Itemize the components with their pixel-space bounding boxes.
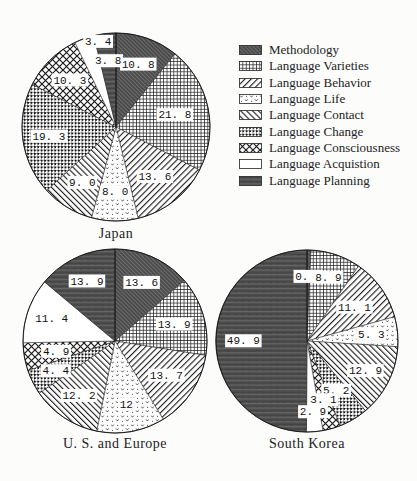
- u-s-and-europe-value-label-methodology: 13. 6: [125, 277, 158, 289]
- pie-us-europe-group: 13. 613. 913. 71212. 24. 44. 911. 413. 9: [23, 249, 207, 433]
- japan-value-label-varieties: 21. 8: [158, 109, 191, 121]
- japan-value-label-planning: 3. 8: [95, 55, 121, 67]
- change-pattern-swatch-icon: [239, 127, 262, 137]
- south-korea-value-label-contact: 12. 9: [349, 365, 382, 377]
- legend-item-language-contact: Language Contact: [239, 107, 400, 123]
- pie-title-south-korea: South Korea: [207, 436, 407, 452]
- south-korea-value-label-acquisition: 2. 9: [300, 406, 326, 418]
- pie-japan-group: 10. 821. 813. 68. 09. 019. 310. 33. 43. …: [22, 33, 210, 221]
- u-s-and-europe-value-label-change: 4. 4: [43, 365, 70, 377]
- legend-label: Language Consciousness: [269, 140, 400, 156]
- u-s-and-europe-value-label-acquisition: 11. 4: [35, 313, 68, 325]
- legend-label: Language Behavior: [269, 75, 371, 91]
- south-korea-value-label-behavior: 11. 1: [338, 302, 371, 314]
- legend-item-language-life: Language Life: [239, 91, 400, 107]
- japan-value-label-change: 19. 3: [32, 131, 65, 143]
- legend-item-language-change: Language Change: [239, 123, 400, 139]
- legend-label: Language Life: [269, 91, 345, 107]
- legend-item-language-varieties: Language Varieties: [239, 58, 400, 74]
- u-s-and-europe-value-label-varieties: 13. 9: [158, 319, 191, 331]
- u-s-and-europe-value-label-life: 12: [120, 399, 133, 411]
- behavior-pattern-swatch-icon: [239, 78, 262, 88]
- pie-title-japan: Japan: [16, 226, 216, 242]
- life-pattern-swatch-icon: [239, 94, 262, 104]
- legend-label: Language Contact: [269, 107, 364, 123]
- japan-value-label-acquisition: 3. 4: [85, 36, 112, 48]
- japan-value-label-life: 8. 0: [102, 186, 128, 198]
- varieties-pattern-swatch-icon: [239, 61, 262, 71]
- south-korea-value-label-life: 5. 3: [358, 329, 384, 341]
- legend: Methodology Language Varieties Language …: [239, 42, 400, 189]
- legend-label: Language Acquistion: [269, 156, 380, 172]
- legend-item-language-behavior: Language Behavior: [239, 75, 400, 91]
- legend-label: Language Change: [269, 124, 363, 140]
- legend-item-language-acquistion: Language Acquistion: [239, 156, 400, 172]
- language-research-pie-figure: 10. 821. 813. 68. 09. 019. 310. 33. 43. …: [0, 0, 417, 481]
- south-korea-value-label-varieties: 8. 9: [315, 272, 341, 284]
- legend-item-methodology: Methodology: [239, 42, 400, 58]
- u-s-and-europe-value-label-planning: 13. 9: [70, 276, 103, 288]
- japan-value-label-contact: 9. 0: [69, 177, 95, 189]
- legend-label: Language Planning: [269, 173, 370, 189]
- contact-pattern-swatch-icon: [239, 110, 262, 120]
- u-s-and-europe-value-label-consciousness: 4. 9: [43, 346, 69, 358]
- pie-south-korea-group: 0. 78. 911. 15. 312. 95. 23. 12. 949. 9: [216, 250, 398, 432]
- planning-pattern-swatch-icon: [239, 176, 262, 186]
- japan-value-label-behavior: 13. 6: [138, 171, 171, 183]
- japan-value-label-methodology: 10. 8: [122, 59, 155, 71]
- south-korea-value-label-planning: 49. 9: [227, 335, 260, 347]
- acquisition-pattern-swatch-icon: [239, 159, 262, 169]
- methodology-pattern-swatch-icon: [239, 45, 262, 55]
- u-s-and-europe-value-label-contact: 12. 2: [62, 390, 95, 402]
- legend-label: Language Varieties: [269, 58, 369, 74]
- legend-item-language-planning: Language Planning: [239, 172, 400, 188]
- u-s-and-europe-value-label-behavior: 13. 7: [150, 370, 183, 382]
- legend-item-language-consciousness: Language Consciousness: [239, 140, 400, 156]
- consciousness-pattern-swatch-icon: [239, 143, 262, 153]
- pie-title-us-europe: U. S. and Europe: [15, 436, 215, 452]
- south-korea-value-label-consciousness: 3. 1: [310, 394, 337, 406]
- japan-value-label-consciousness: 10. 3: [53, 75, 86, 87]
- legend-label: Methodology: [269, 42, 339, 58]
